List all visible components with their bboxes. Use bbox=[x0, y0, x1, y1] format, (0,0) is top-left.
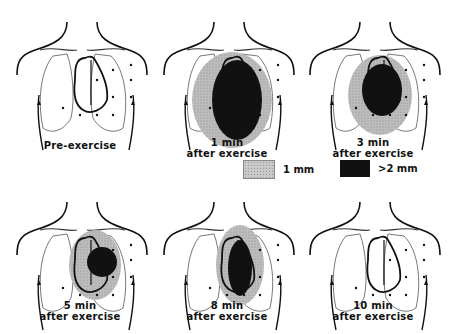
caption: Pre-exercise bbox=[5, 140, 155, 151]
caption: 5 min after exercise bbox=[5, 300, 155, 322]
caption: 10 min after exercise bbox=[298, 300, 448, 322]
panel-8min: 8 min after exercise bbox=[152, 180, 302, 334]
panel-10min: 10 min after exercise bbox=[298, 180, 448, 334]
torso-diagram bbox=[152, 0, 302, 160]
legend-swatch-dark bbox=[340, 160, 370, 177]
legend-label: 1 mm bbox=[283, 164, 314, 175]
panel-1min: 1 min after exercise bbox=[152, 0, 302, 160]
caption: 8 min after exercise bbox=[152, 300, 302, 322]
panel-3min: 3 min after exercise bbox=[298, 0, 448, 160]
panel-pre-exercise: Pre-exercise bbox=[5, 0, 155, 160]
legend-swatch-light bbox=[243, 160, 275, 179]
caption: 3 min after exercise bbox=[298, 137, 448, 159]
legend-label: >2 mm bbox=[378, 163, 418, 174]
legend-2mm: >2 mm bbox=[340, 160, 418, 177]
torso-diagram bbox=[298, 0, 448, 160]
legend-1mm: 1 mm bbox=[243, 160, 314, 179]
torso-diagram bbox=[5, 0, 155, 160]
caption: 1 min after exercise bbox=[152, 137, 302, 159]
panel-5min: 5 min after exercise bbox=[5, 180, 155, 334]
